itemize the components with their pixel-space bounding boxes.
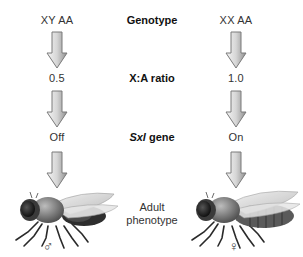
down-arrow-icon (225, 90, 247, 128)
down-arrow-icon (225, 151, 247, 189)
female-symbol: ♀ (224, 238, 244, 254)
row-label-ratio: X:A ratio (102, 72, 202, 84)
row-label-genotype: Genotype (102, 14, 202, 26)
down-arrow-icon (46, 90, 68, 128)
gene-word: gene (146, 131, 175, 143)
male-xa-ratio: 0.5 (27, 72, 87, 84)
down-arrow-icon (225, 31, 247, 69)
female-genotype: XX AA (206, 14, 266, 26)
male-genotype: XY AA (27, 14, 87, 26)
down-arrow-icon (46, 151, 68, 189)
down-arrow-icon (46, 31, 68, 69)
row-label-sxl-gene: Sxl gene (102, 131, 202, 143)
male-sxl-state: Off (27, 131, 87, 143)
gene-name: Sxl (129, 131, 146, 143)
male-fly-icon (8, 188, 120, 250)
male-symbol: ♂ (38, 238, 58, 254)
female-xa-ratio: 1.0 (206, 72, 266, 84)
female-sxl-state: On (206, 131, 266, 143)
